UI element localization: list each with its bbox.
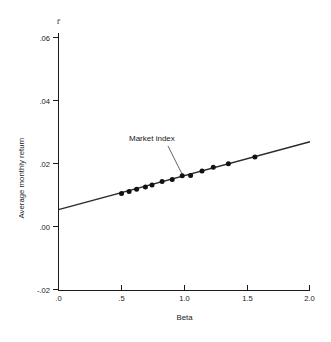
scatter-plot-svg: .06 .04 .02 .00 -.02 .0 .5 1.0 1.5 2.0 r…: [0, 0, 331, 342]
data-point: [180, 173, 185, 178]
x-axis-title: Beta: [176, 313, 193, 322]
x-tick-label-1.5: 1.5: [242, 294, 253, 303]
data-point: [252, 155, 257, 160]
market-index-annotation-label: Market index: [129, 134, 175, 143]
x-tick-label-0.5: .5: [118, 294, 124, 303]
x-tick-label-1.0: 1.0: [179, 294, 190, 303]
data-point: [134, 187, 139, 192]
y-axis-title: Average monthly return: [17, 138, 26, 219]
data-point: [119, 191, 124, 196]
data-point: [150, 183, 155, 188]
x-axis-tick-labels: .0 .5 1.0 1.5 2.0: [55, 294, 314, 303]
y-tick-label-0.06: .06: [39, 34, 50, 43]
data-point: [170, 177, 175, 182]
data-point: [200, 169, 205, 174]
data-point: [211, 165, 216, 170]
y-axis-tick-labels: .06 .04 .02 .00 -.02: [37, 34, 50, 295]
x-tick-label-0.0: .0: [55, 294, 61, 303]
data-point: [226, 161, 231, 166]
data-point: [127, 189, 132, 194]
x-axis-ticks: [59, 285, 310, 291]
y-axis-ticks: [53, 38, 59, 290]
data-point: [143, 185, 148, 190]
chart-figure: .06 .04 .02 .00 -.02 .0 .5 1.0 1.5 2.0 r…: [0, 0, 331, 342]
y-tick-label-0.00: .00: [39, 223, 50, 232]
data-point-group: [119, 155, 257, 196]
data-point: [160, 179, 165, 184]
y-tick-label-0.02: .02: [39, 160, 50, 169]
y-tick-label--0.02: -.02: [37, 286, 50, 295]
y-tick-label-0.04: .04: [39, 97, 50, 106]
x-tick-label-2.0: 2.0: [304, 294, 315, 303]
data-point: [188, 173, 193, 178]
y-axis-symbol-rbar: r̄: [57, 16, 61, 26]
market-index-leader-line: [168, 146, 182, 174]
